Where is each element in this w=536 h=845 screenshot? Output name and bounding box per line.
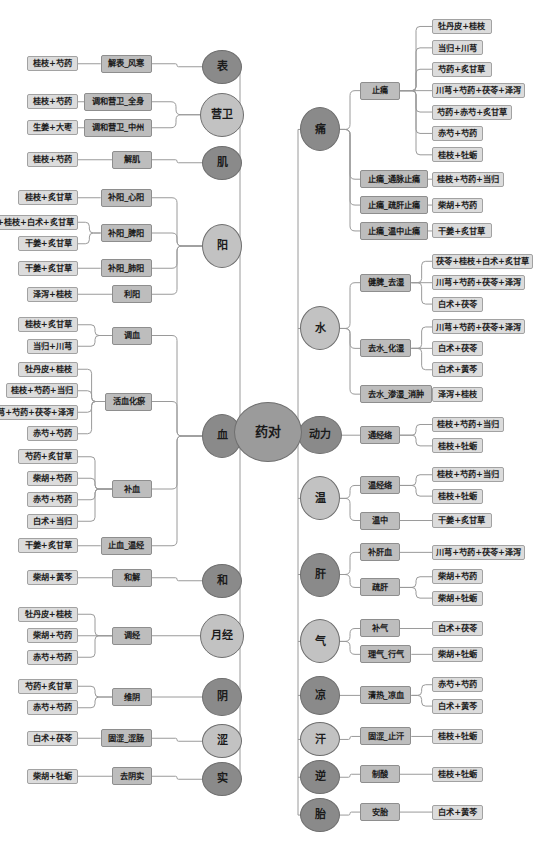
herb-pair-node[interactable]: 桂枝+芍药+当归 <box>432 467 504 482</box>
category-node-营卫[interactable]: 营卫 <box>200 93 244 137</box>
function-node-去水_渗湿_消肿[interactable]: 去水_渗湿_消肿 <box>360 385 432 403</box>
herb-pair-node[interactable]: 柴胡+黄芩 <box>27 570 78 585</box>
function-node-止痛_疏肝止痛[interactable]: 止痛_疏肝止痛 <box>360 196 428 214</box>
herb-pair-node[interactable]: 干姜+炙甘草 <box>432 223 492 238</box>
category-node-胎[interactable]: 胎 <box>300 798 340 832</box>
herb-pair-node[interactable]: 白术+黄芩 <box>432 805 483 820</box>
herb-pair-node[interactable]: 赤芍+芍药 <box>27 426 78 441</box>
category-node-凉[interactable]: 凉 <box>300 676 340 714</box>
herb-pair-node[interactable]: 牡丹皮+桂枝 <box>432 19 492 34</box>
category-node-温[interactable]: 温 <box>300 476 340 520</box>
function-node-调和营卫_中州[interactable]: 调和营卫_中州 <box>84 119 152 137</box>
function-node-解表_风寒[interactable]: 解表_风寒 <box>101 55 152 73</box>
category-node-逆[interactable]: 逆 <box>300 760 340 794</box>
herb-pair-node[interactable]: 干姜+炙甘草 <box>18 261 78 276</box>
herb-pair-node[interactable]: 桂枝+牡蛎 <box>432 729 483 744</box>
category-node-阴[interactable]: 阴 <box>202 678 242 717</box>
category-node-水[interactable]: 水 <box>300 306 340 350</box>
herb-pair-node[interactable]: 白术+茯苓 <box>432 297 483 312</box>
herb-pair-node[interactable]: 川芎+芍药+茯苓+泽泻 <box>432 83 525 98</box>
herb-pair-node[interactable]: 白术+茯苓 <box>432 621 483 636</box>
category-node-肝[interactable]: 肝 <box>300 553 340 597</box>
function-node-补肝血[interactable]: 补肝血 <box>360 543 400 561</box>
function-node-活血化瘀[interactable]: 活血化瘀 <box>105 393 152 411</box>
herb-pair-node[interactable]: 柴胡+芍药 <box>27 628 78 643</box>
function-node-维阴[interactable]: 维阴 <box>112 688 152 706</box>
function-node-补阳_心阳[interactable]: 补阳_心阳 <box>101 189 152 207</box>
category-node-阳[interactable]: 阳 <box>202 224 242 268</box>
function-node-理气_行气[interactable]: 理气_行气 <box>360 645 411 663</box>
category-node-汗[interactable]: 汗 <box>300 722 340 756</box>
herb-pair-node[interactable]: 芍药+赤芍+炙甘草 <box>432 105 512 120</box>
function-node-补气[interactable]: 补气 <box>360 619 400 637</box>
function-node-调经[interactable]: 调经 <box>112 627 152 645</box>
herb-pair-node[interactable]: 白术+茯苓 <box>27 731 78 746</box>
function-node-去阴实[interactable]: 去阴实 <box>112 767 152 785</box>
function-node-清热_凉血[interactable]: 清热_凉血 <box>360 686 411 704</box>
herb-pair-node[interactable]: 干姜+炙甘草 <box>432 513 492 528</box>
herb-pair-node[interactable]: 赤芍+芍药 <box>27 650 78 665</box>
herb-pair-node[interactable]: 柴胡+芍药 <box>27 471 78 486</box>
function-node-解肌[interactable]: 解肌 <box>112 151 152 169</box>
herb-pair-node[interactable]: 当归+川芎 <box>432 40 483 55</box>
function-node-止痛_通脉止痛[interactable]: 止痛_通脉止痛 <box>360 170 428 188</box>
category-node-实[interactable]: 实 <box>202 762 242 796</box>
function-node-去水_化湿[interactable]: 去水_化湿 <box>360 339 411 357</box>
herb-pair-node[interactable]: 牡丹皮+桂枝 <box>18 607 78 622</box>
herb-pair-node[interactable]: 桂枝+牡蛎 <box>432 489 483 504</box>
herb-pair-node[interactable]: 桂枝+牡蛎 <box>432 767 483 782</box>
herb-pair-node[interactable]: 川芎+芍药+茯苓+泽泻 <box>0 405 78 420</box>
herb-pair-node[interactable]: 白术+茯苓 <box>432 341 483 356</box>
herb-pair-node[interactable]: 芍药+炙甘草 <box>18 449 78 464</box>
function-node-固涩_涩肠[interactable]: 固涩_涩肠 <box>101 729 152 747</box>
category-node-肌[interactable]: 肌 <box>202 146 242 180</box>
category-node-月经[interactable]: 月经 <box>200 614 244 658</box>
category-node-气[interactable]: 气 <box>300 619 340 663</box>
herb-pair-node[interactable]: 白术+黄芩 <box>432 699 483 714</box>
herb-pair-node[interactable]: 桂枝+芍药+当归 <box>432 172 504 187</box>
function-node-温中[interactable]: 温中 <box>360 512 400 530</box>
herb-pair-node[interactable]: 生姜+大枣 <box>27 120 78 135</box>
herb-pair-node[interactable]: 柴胡+牡蛎 <box>27 769 78 784</box>
herb-pair-node[interactable]: 桂枝+牡蛎 <box>432 438 483 453</box>
function-node-温经络[interactable]: 温经络 <box>360 476 400 494</box>
herb-pair-node[interactable]: 桂枝+芍药 <box>27 152 78 167</box>
herb-pair-node[interactable]: 川芎+芍药+茯苓+泽泻 <box>432 275 525 290</box>
category-node-表[interactable]: 表 <box>202 50 242 84</box>
herb-pair-node[interactable]: 芍药+炙甘草 <box>18 679 78 694</box>
herb-pair-node[interactable]: 柴胡+牡蛎 <box>432 647 483 662</box>
herb-pair-node[interactable]: 赤芍+芍药 <box>27 700 78 715</box>
herb-pair-node[interactable]: 当归+川芎 <box>27 339 78 354</box>
function-node-固涩_止汗[interactable]: 固涩_止汗 <box>360 727 411 745</box>
category-node-动力[interactable]: 动力 <box>298 416 342 454</box>
herb-pair-node[interactable]: 桂枝+芍药+当归 <box>6 383 78 398</box>
herb-pair-node[interactable]: 干姜+炙甘草 <box>18 538 78 553</box>
herb-pair-node[interactable]: 芍药+炙甘草 <box>432 62 492 77</box>
function-node-利阳[interactable]: 利阳 <box>112 285 152 303</box>
herb-pair-node[interactable]: 柴胡+芍药 <box>432 198 483 213</box>
herb-pair-node[interactable]: 赤芍+芍药 <box>27 492 78 507</box>
herb-pair-node[interactable]: 桂枝+牡蛎 <box>432 147 483 162</box>
root-node[interactable]: 药对 <box>234 402 302 462</box>
herb-pair-node[interactable]: 柴胡+牡蛎 <box>432 591 483 606</box>
herb-pair-node[interactable]: 赤芍+芍药 <box>432 677 483 692</box>
function-node-制酸[interactable]: 制酸 <box>360 765 400 783</box>
herb-pair-node[interactable]: 干姜+炙甘草 <box>18 236 78 251</box>
function-node-调和营卫_全身[interactable]: 调和营卫_全身 <box>84 93 152 111</box>
function-node-止血_温经[interactable]: 止血_温经 <box>101 537 152 555</box>
herb-pair-node[interactable]: 桂枝+芍药+当归 <box>432 417 504 432</box>
function-node-调血[interactable]: 调血 <box>112 327 152 345</box>
function-node-止痛[interactable]: 止痛 <box>360 82 400 100</box>
function-node-止痛_温中止痛[interactable]: 止痛_温中止痛 <box>360 222 428 240</box>
herb-pair-node[interactable]: 泽泻+桂枝 <box>432 387 483 402</box>
function-node-补血[interactable]: 补血 <box>112 480 152 498</box>
herb-pair-node[interactable]: 桂枝+炙甘草 <box>18 317 78 332</box>
herb-pair-node[interactable]: 桂枝+芍药 <box>27 56 78 71</box>
herb-pair-node[interactable]: 牡丹皮+桂枝 <box>18 362 78 377</box>
category-node-和[interactable]: 和 <box>202 564 242 598</box>
herb-pair-node[interactable]: 柴胡+芍药 <box>432 569 483 584</box>
herb-pair-node[interactable]: 白术+黄芩 <box>432 362 483 377</box>
function-node-补阳_脾阳[interactable]: 补阳_脾阳 <box>101 224 152 242</box>
function-node-通经络[interactable]: 通经络 <box>360 426 400 444</box>
herb-pair-node[interactable]: 泽泻+桂枝 <box>27 287 78 302</box>
